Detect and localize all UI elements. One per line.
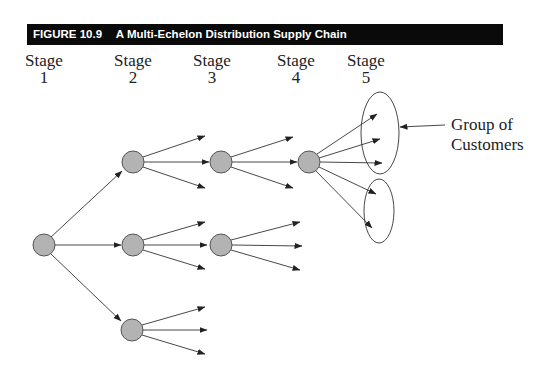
node-stage-3 (210, 151, 232, 173)
leader-arrow-icon (400, 125, 445, 127)
arrow-icon (231, 222, 300, 240)
arrow-icon (320, 162, 382, 163)
node-stage-3 (210, 234, 232, 256)
arrow-icon (316, 171, 372, 228)
arrow-icon (319, 139, 380, 158)
supply-chain-diagram (0, 0, 543, 380)
arrow-icon (142, 335, 205, 354)
arrows (51, 114, 445, 354)
node-stage-2 (122, 151, 144, 173)
arrow-icon (142, 307, 205, 325)
arrow-icon (232, 245, 302, 246)
node-stage-2 (122, 234, 144, 256)
arrow-icon (143, 167, 205, 188)
customer-group-ellipse (364, 179, 394, 243)
node-stage-1 (33, 234, 55, 256)
customer-groups (361, 92, 399, 243)
arrow-icon (231, 250, 300, 270)
arrow-icon (51, 171, 122, 237)
arrow-icon (143, 222, 205, 240)
node-stage-4 (298, 151, 320, 173)
arrow-icon (231, 137, 293, 157)
arrow-icon (143, 250, 205, 269)
arrow-icon (231, 167, 293, 188)
customer-group-ellipse (361, 92, 399, 174)
arrow-icon (317, 114, 377, 154)
arrow-icon (143, 136, 205, 157)
arrow-icon (51, 254, 121, 321)
node-stage-2 (121, 319, 143, 341)
